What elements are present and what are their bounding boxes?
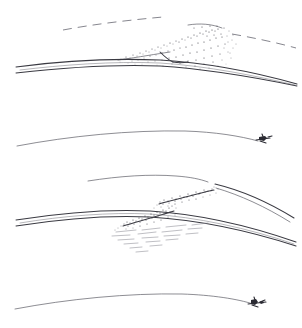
streamline-arc — [17, 131, 258, 146]
aircraft-silhouette — [256, 134, 272, 143]
aircraft-silhouette — [248, 297, 266, 307]
upper-arc-streamline — [88, 175, 208, 182]
splay-line-upper — [215, 184, 294, 218]
band-accent-upper — [159, 190, 214, 204]
panel-1-drawing — [0, 0, 302, 92]
panel-1-upper-wave-cloud — [0, 0, 302, 92]
panel-3-drawing — [0, 170, 302, 262]
flow-line-lower — [16, 65, 297, 86]
panel-3-double-band-turbulence — [0, 170, 302, 262]
figure-sheet — [0, 0, 302, 328]
dashed-streamline-left — [63, 17, 163, 30]
flow-line-lower — [16, 216, 296, 246]
panel-2-clear-streamline-upper — [0, 110, 302, 160]
splay-line-upper-2 — [216, 188, 290, 222]
dashed-streamline-right — [232, 34, 296, 48]
stipple-band-upper — [154, 187, 219, 209]
panel-4-clear-streamline-lower — [0, 278, 302, 328]
streamline-arc — [15, 294, 253, 309]
panel-4-drawing — [0, 278, 302, 328]
panel-2-drawing — [0, 110, 302, 160]
hatch-layer — [112, 223, 208, 252]
